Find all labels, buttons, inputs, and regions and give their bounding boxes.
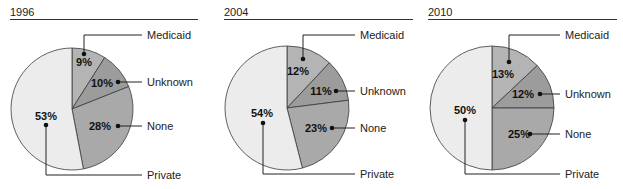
legend-label-unknown: Unknown [147, 76, 193, 88]
pie-1996: Medicaid9%Unknown10%None28%Private53% [11, 29, 193, 181]
percent-label-medicaid: 9% [76, 56, 92, 68]
pie-2010: Medicaid13%Unknown12%None25%Private50% [430, 29, 611, 180]
legend-label-private: Private [147, 169, 181, 181]
legend-label-medicaid: Medicaid [565, 29, 609, 41]
percent-label-none: 28% [89, 120, 111, 132]
leader-dot-medicaid [301, 57, 306, 62]
legend-label-none: None [565, 128, 591, 140]
leader-dot-private [261, 121, 266, 126]
leader-dot-medicaid [507, 60, 512, 65]
legend-label-private: Private [565, 168, 599, 180]
legend-label-unknown: Unknown [360, 85, 406, 97]
leader-dot-unknown [334, 89, 339, 94]
pie-2004: Medicaid12%Unknown11%None23%Private54% [225, 29, 406, 180]
leader-dot-private [463, 118, 468, 123]
percent-label-private: 53% [35, 110, 57, 122]
pie-charts: Medicaid9%Unknown10%None28%Private53% Me… [0, 0, 623, 189]
leader-dot-unknown [538, 92, 543, 97]
legend-label-unknown: Unknown [565, 88, 611, 100]
percent-label-unknown: 12% [512, 88, 534, 100]
percent-label-unknown: 11% [310, 85, 332, 97]
percent-label-medicaid: 13% [492, 68, 514, 80]
leader-dot-none [116, 124, 121, 129]
legend-label-medicaid: Medicaid [147, 29, 191, 41]
legend-label-none: None [360, 122, 386, 134]
legend-label-medicaid: Medicaid [360, 29, 404, 41]
percent-label-private: 50% [454, 104, 476, 116]
leader-dot-none [330, 126, 335, 131]
percent-label-unknown: 10% [91, 77, 113, 89]
percent-label-none: 23% [305, 122, 327, 134]
legend-label-none: None [147, 120, 173, 132]
percent-label-medicaid: 12% [287, 65, 309, 77]
percent-label-private: 54% [251, 107, 273, 119]
leader-dot-private [44, 123, 49, 128]
legend-label-private: Private [360, 168, 394, 180]
leader-dot-unknown [116, 80, 121, 85]
percent-label-none: 25% [508, 128, 530, 140]
